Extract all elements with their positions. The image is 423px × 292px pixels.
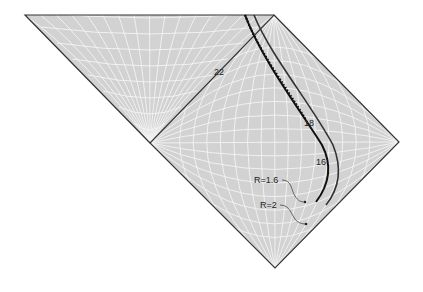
annotation-r2-dot bbox=[305, 223, 308, 226]
curve-label-22: 22 bbox=[214, 67, 224, 77]
curve-label-16: 16 bbox=[316, 157, 326, 167]
curve-label-18: 18 bbox=[304, 118, 314, 128]
annotation-r16-dot bbox=[304, 201, 307, 204]
annotation-r2: R=2 bbox=[260, 200, 277, 210]
annotation-r16: R=1.6 bbox=[254, 175, 278, 185]
penrose-diagram: 22 18 16 R=1.6 R=2 bbox=[0, 0, 423, 292]
